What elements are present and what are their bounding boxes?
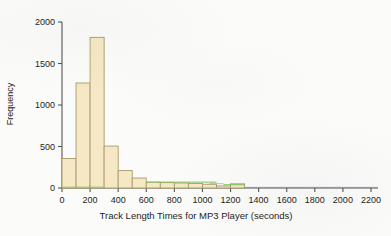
histogram-bar	[146, 182, 160, 188]
x-tick-label: 1200	[221, 195, 241, 205]
histogram-bar	[104, 146, 118, 188]
plot-bars	[62, 37, 245, 188]
histogram-bar	[132, 178, 146, 188]
y-tick-label: 500	[0, 142, 55, 152]
x-tick-label: 1000	[192, 195, 212, 205]
y-tick-label: 0	[0, 183, 55, 193]
x-axis-title: Track Length Times for MP3 Player (secon…	[100, 210, 293, 221]
histogram-screenshot: 0500100015002000 02004006008001000120014…	[0, 0, 391, 236]
x-tick-label: 2000	[333, 195, 353, 205]
histogram-bar	[90, 37, 104, 188]
histogram-bar	[202, 184, 216, 188]
histogram-bar	[62, 159, 76, 188]
histogram-bar	[118, 171, 132, 188]
x-tick-label: 2200	[361, 195, 381, 205]
histogram-bar	[216, 186, 230, 188]
x-tick-label: 800	[167, 195, 182, 205]
y-tick-label: 1500	[0, 59, 55, 69]
histogram-bar	[188, 183, 202, 188]
x-tick-label: 1600	[277, 195, 297, 205]
x-tick-label: 400	[111, 195, 126, 205]
histogram-bar	[174, 183, 188, 188]
x-tick-label: 0	[59, 195, 64, 205]
histogram-bar	[160, 183, 174, 188]
y-tick-label: 2000	[0, 17, 55, 27]
x-tick-label: 1800	[305, 195, 325, 205]
x-tick-label: 200	[83, 195, 98, 205]
histogram-bar	[76, 83, 90, 188]
y-axis-title: Frequency	[5, 83, 15, 126]
x-tick-label: 600	[139, 195, 154, 205]
x-tick-label: 1400	[249, 195, 269, 205]
